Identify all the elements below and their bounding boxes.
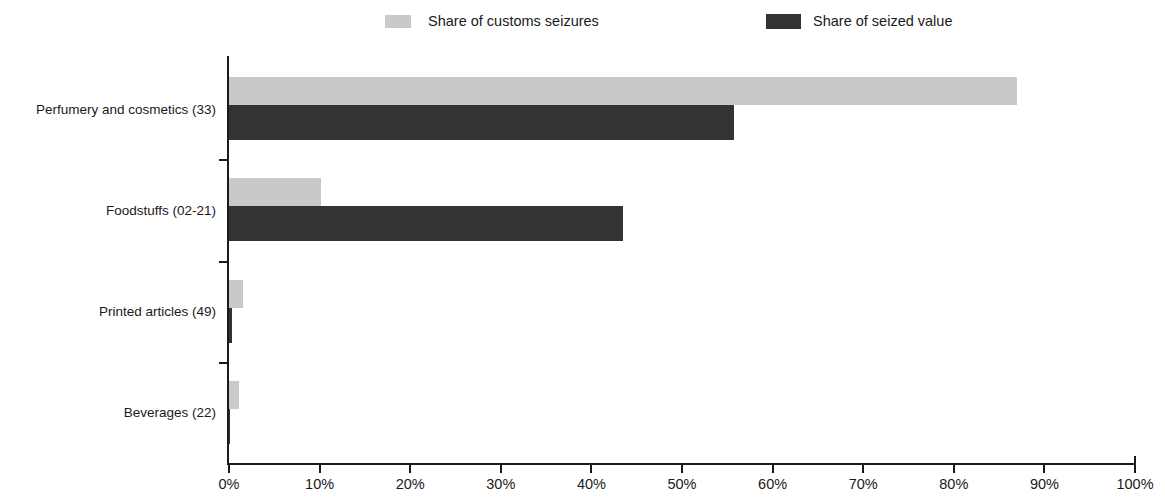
bar-seized-value [229, 105, 734, 140]
plot-area: Perfumery and cosmetics (33)Foodstuffs (… [0, 0, 1165, 502]
x-axis-tick [590, 465, 592, 473]
x-axis-tick-label: 60% [758, 476, 787, 492]
y-axis-category-label: Printed articles (49) [99, 304, 216, 319]
y-axis-category-label: Perfumery and cosmetics (33) [36, 101, 216, 116]
y-axis-tick [219, 261, 228, 263]
y-axis-tick [219, 362, 228, 364]
y-axis-category-label: Foodstuffs (02-21) [106, 202, 216, 217]
x-axis-tick-label: 20% [396, 476, 425, 492]
x-axis-tick [772, 465, 774, 473]
x-axis-tick-label: 0% [219, 476, 240, 492]
x-axis-tick [1043, 465, 1045, 473]
bar-customs-seizures [229, 77, 1017, 105]
x-axis-tick-label: 80% [939, 476, 968, 492]
x-axis-tick-label: 40% [577, 476, 606, 492]
x-axis-tick [1134, 465, 1136, 473]
y-axis-top-cap [227, 56, 229, 65]
x-axis-right-cap [1134, 456, 1136, 465]
x-axis-tick [681, 465, 683, 473]
bar-chart: Share of customs seizures Share of seize… [0, 0, 1165, 502]
x-axis-tick-label: 10% [305, 476, 334, 492]
bar-seized-value [229, 206, 623, 241]
x-axis-tick-label: 100% [1116, 476, 1153, 492]
x-axis-tick-label: 90% [1030, 476, 1059, 492]
y-axis-category-label: Beverages (22) [124, 405, 216, 420]
bar-customs-seizures [229, 178, 321, 206]
x-axis-tick [319, 465, 321, 473]
x-axis-tick [953, 465, 955, 473]
x-axis-tick-label: 50% [667, 476, 696, 492]
y-axis-tick [219, 159, 228, 161]
bar-customs-seizures [229, 280, 243, 308]
x-axis-tick [228, 465, 230, 473]
x-axis-tick-label: 30% [486, 476, 515, 492]
x-axis-tick-label: 70% [849, 476, 878, 492]
x-axis-tick [500, 465, 502, 473]
bar-customs-seizures [229, 381, 239, 409]
x-axis-tick [409, 465, 411, 473]
bar-seized-value [229, 308, 232, 343]
x-axis-tick [862, 465, 864, 473]
